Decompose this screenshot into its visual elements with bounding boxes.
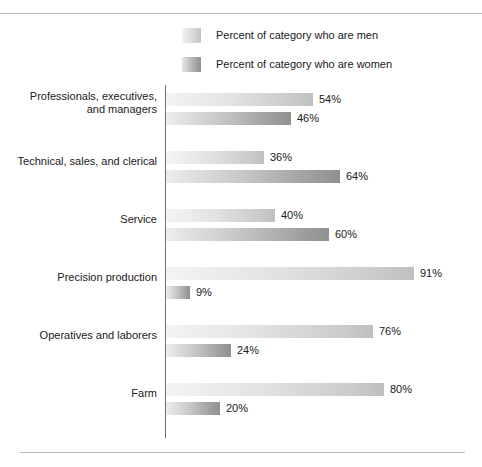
- bar-women: [166, 344, 231, 357]
- bar-value-label: 80%: [390, 382, 412, 396]
- bar-women: [166, 286, 190, 299]
- legend-swatch-men: [182, 28, 201, 43]
- category-label: Farm: [0, 387, 157, 400]
- category-label: Precision production: [0, 271, 157, 284]
- bar-women: [166, 228, 329, 241]
- top-divider-rule: [0, 13, 482, 14]
- bar-men: [166, 209, 275, 222]
- chart-group: Technical, sales, and clerical36%64%: [0, 148, 482, 188]
- chart-group: Farm80%20%: [0, 380, 482, 420]
- bar-women: [166, 112, 291, 125]
- chart-group: Precision production91%9%: [0, 264, 482, 304]
- category-label-line: and managers: [0, 103, 157, 116]
- chart-legend: Percent of category who are menPercent o…: [182, 25, 442, 83]
- bar-value-label: 91%: [420, 266, 442, 280]
- bar-men: [166, 267, 414, 280]
- legend-swatch-women: [182, 57, 201, 72]
- bar-value-label: 36%: [270, 150, 292, 164]
- bar-value-label: 46%: [297, 111, 319, 125]
- bar-value-label: 76%: [379, 324, 401, 338]
- category-label-line: Precision production: [0, 271, 157, 284]
- legend-item-men: Percent of category who are men: [182, 25, 442, 45]
- bar-men: [166, 383, 384, 396]
- category-label-line: Service: [0, 213, 157, 226]
- category-label-line: Professionals, executives,: [0, 90, 157, 103]
- legend-label-men: Percent of category who are men: [216, 29, 378, 42]
- category-label-line: Operatives and laborers: [0, 329, 157, 342]
- chart-figure: Percent of category who are menPercent o…: [0, 0, 482, 467]
- legend-item-women: Percent of category who are women: [182, 54, 442, 74]
- category-label-line: Technical, sales, and clerical: [0, 155, 157, 168]
- category-label: Professionals, executives,and managers: [0, 90, 157, 116]
- bar-value-label: 64%: [346, 169, 368, 183]
- bar-men: [166, 151, 264, 164]
- bar-value-label: 24%: [237, 343, 259, 357]
- bar-men: [166, 325, 373, 338]
- category-label: Operatives and laborers: [0, 329, 157, 342]
- legend-label-women: Percent of category who are women: [216, 58, 392, 71]
- bar-value-label: 20%: [226, 401, 248, 415]
- bar-women: [166, 402, 220, 415]
- category-label: Technical, sales, and clerical: [0, 155, 157, 168]
- bottom-divider-rule: [20, 452, 465, 453]
- category-label: Service: [0, 213, 157, 226]
- bar-value-label: 60%: [335, 227, 357, 241]
- chart-group: Operatives and laborers76%24%: [0, 322, 482, 362]
- category-label-line: Farm: [0, 387, 157, 400]
- bar-value-label: 54%: [319, 92, 341, 106]
- bar-value-label: 9%: [196, 285, 212, 299]
- bar-women: [166, 170, 340, 183]
- chart-group: Service40%60%: [0, 206, 482, 246]
- chart-plot-area: Professionals, executives,and managers54…: [0, 84, 482, 440]
- chart-group: Professionals, executives,and managers54…: [0, 90, 482, 130]
- bar-men: [166, 93, 313, 106]
- bar-value-label: 40%: [281, 208, 303, 222]
